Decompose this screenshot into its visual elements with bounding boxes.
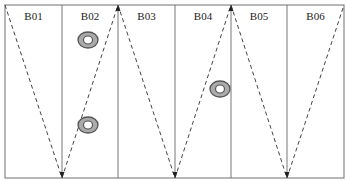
- bay-label-b06: B06: [306, 10, 325, 22]
- bay-label-b02: B02: [81, 10, 99, 22]
- route-segment: [287, 5, 344, 178]
- arrowhead-icon: [60, 172, 65, 178]
- arrowhead-icon: [116, 5, 121, 11]
- arrowhead-icon: [229, 5, 234, 11]
- donut-marker-icon: [78, 117, 98, 133]
- arrowhead-icon: [285, 172, 290, 178]
- bay-label-b05: B05: [250, 10, 269, 22]
- route-segment: [118, 5, 175, 178]
- arrowhead-icon: [173, 172, 178, 178]
- bay-label-b01: B01: [24, 10, 42, 22]
- route-segment: [231, 5, 287, 178]
- route-segment: [62, 5, 118, 178]
- bay-dividers: [62, 5, 287, 178]
- bay-label-b04: B04: [194, 10, 213, 22]
- donut-marker-icon: [78, 32, 98, 48]
- donut-marker-icon: [210, 81, 230, 97]
- bay-label-b03: B03: [137, 10, 156, 22]
- route-segment: [5, 5, 62, 178]
- bay-layout-diagram: B01B02B03B04B05B06: [0, 0, 346, 182]
- markers: [78, 32, 230, 133]
